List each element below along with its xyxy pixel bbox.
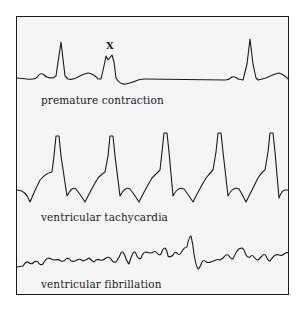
ventricular-tachycardia-label: ventricular tachycardia (41, 211, 168, 223)
ventricular-fibrillation-label: ventricular fibrillation (41, 278, 162, 290)
premature-beat-marker: X (106, 40, 114, 51)
ventricular-fibrillation-trace (17, 236, 289, 269)
premature-contraction-trace (17, 39, 289, 84)
ventricular-tachycardia-trace (17, 133, 289, 202)
premature-contraction-label: premature contraction (41, 94, 164, 106)
ecg-traces (0, 0, 305, 321)
